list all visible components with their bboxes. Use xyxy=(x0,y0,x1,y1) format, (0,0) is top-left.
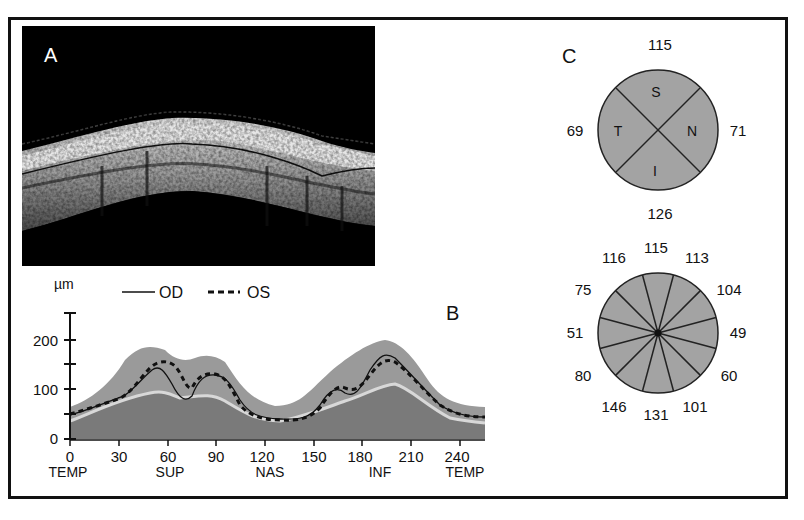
quadrant-value-nasal: 71 xyxy=(730,122,747,139)
quadrant-value-superior: 115 xyxy=(648,36,672,53)
panel-label-a: A xyxy=(44,44,57,67)
quadrant-value-temporal: 69 xyxy=(567,122,584,139)
region-label-temp-end: TEMP xyxy=(446,464,485,480)
legend-od-label: OD xyxy=(159,284,183,301)
x-tick-label: 30 xyxy=(111,448,128,465)
clock-value-7: 146 xyxy=(601,398,626,415)
x-tick-label: 150 xyxy=(301,448,326,465)
y-tick-label: 100 xyxy=(33,381,58,398)
panel-label-b: B xyxy=(446,302,459,324)
clock-value-3: 49 xyxy=(730,324,747,341)
y-tick-label: 0 xyxy=(50,430,58,447)
clock-value-11: 116 xyxy=(602,249,626,266)
clock-value-1: 113 xyxy=(685,249,709,266)
x-tick-label: 90 xyxy=(208,448,225,465)
quadrant-s-label: S xyxy=(651,84,660,100)
legend-os-label: OS xyxy=(247,284,270,301)
clock-hour-chart: 115 113 104 49 60 101 131 146 80 51 75 1… xyxy=(567,239,747,423)
quadrant-value-inferior: 126 xyxy=(647,205,672,222)
x-tick-label: 120 xyxy=(249,448,274,465)
region-label-sup: SUP xyxy=(156,464,185,480)
region-label-temp: TEMP xyxy=(49,464,88,480)
clock-value-8: 80 xyxy=(575,367,592,384)
quadrant-i-label: I xyxy=(653,163,657,179)
x-tick-label: 240 xyxy=(444,448,469,465)
clock-value-5: 101 xyxy=(682,398,707,415)
region-label-nas: NAS xyxy=(256,464,285,480)
clock-value-12: 115 xyxy=(644,239,668,256)
tsnit-thickness-chart: 0 100 200 µm 0 30 60 90 120 150 180 210 … xyxy=(0,270,520,490)
y-unit-label: µm xyxy=(54,276,74,292)
x-tick-label: 210 xyxy=(398,448,423,465)
oct-scan-graphic xyxy=(22,26,375,266)
clock-value-9: 51 xyxy=(567,324,584,341)
clock-value-2: 104 xyxy=(716,281,741,298)
y-tick-label: 200 xyxy=(33,332,58,349)
quadrant-n-label: N xyxy=(687,123,697,139)
x-tick-label: 0 xyxy=(66,448,74,465)
x-ticks xyxy=(70,440,460,446)
oct-scan-image: A xyxy=(22,26,375,266)
clock-value-4: 60 xyxy=(721,367,738,384)
rnfl-sector-charts: C S N I T 115 71 126 69 xyxy=(540,20,790,480)
clock-value-6: 131 xyxy=(643,406,668,423)
x-tick-label: 60 xyxy=(160,448,177,465)
x-tick-label: 180 xyxy=(347,448,372,465)
panel-label-c: C xyxy=(562,45,576,67)
region-label-inf: INF xyxy=(369,464,392,480)
clock-value-10: 75 xyxy=(575,281,592,298)
quadrant-chart: S N I T 115 71 126 69 xyxy=(567,36,747,222)
quadrant-t-label: T xyxy=(614,123,623,139)
